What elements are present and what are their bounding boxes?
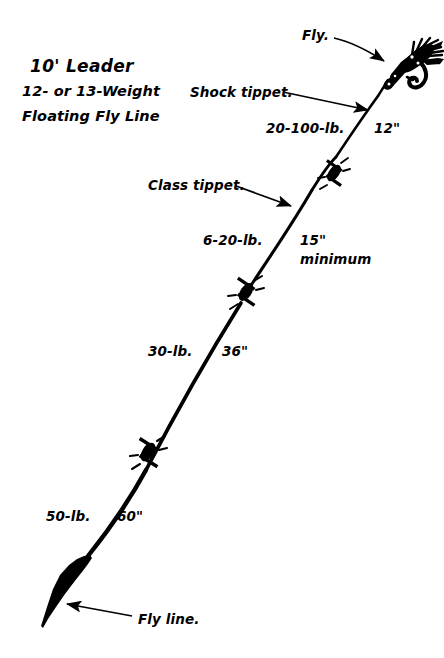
title-subline-line-type: Floating Fly Line [22,109,160,124]
label-shock-tippet: Shock tippet. [190,85,293,99]
title-subline-weight: 12- or 13-Weight [22,84,160,99]
label-fly: Fly. [302,28,329,42]
label-shock-tippet-length: 12" [374,121,400,135]
label-butt-length: 60" [117,509,143,523]
fly-line-callout-arrow [67,604,132,616]
shock-tippet-callout-arrow [283,92,368,110]
fly-leader-diagram: 10' Leader 12- or 13-Weight Floating Fly… [0,0,444,658]
fly-illustration [381,38,444,92]
label-mid-butt-length: 36" [222,344,248,358]
fly-line-section [41,555,92,628]
label-class-tippet: Class tippet. [148,178,245,192]
label-class-tippet-length-note: minimum [300,252,371,266]
leader-line-group [41,80,388,628]
leader-30lb-section [146,303,241,470]
page-title: 10' Leader [30,58,134,76]
label-fly-line: Fly line. [138,612,199,626]
knot-class-to-butt [228,276,264,309]
fly-callout-arrow [334,38,384,61]
label-class-tippet-strength: 6-20-lb. [203,233,263,247]
label-mid-butt-strength: 30-lb. [148,344,192,358]
label-class-tippet-length: 15" [300,233,326,247]
label-shock-tippet-strength: 20-100-lb. [266,121,345,135]
label-butt-strength: 50-lb. [46,509,90,523]
